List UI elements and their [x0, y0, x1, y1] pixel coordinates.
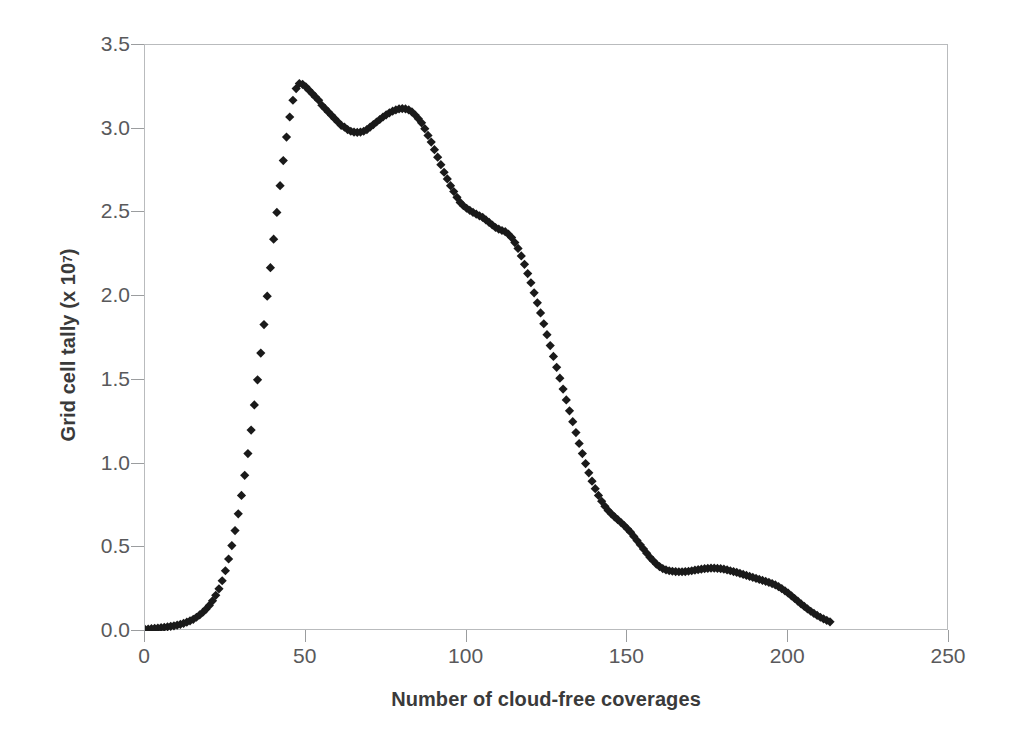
plot-area	[144, 44, 948, 630]
data-point	[259, 320, 268, 329]
data-point	[227, 541, 236, 550]
y-tickmark	[131, 379, 144, 380]
data-point	[571, 428, 580, 437]
data-point	[568, 417, 577, 426]
data-point	[224, 554, 233, 563]
x-tickmark	[626, 630, 627, 642]
data-series-scatter	[145, 45, 949, 631]
data-point	[282, 132, 291, 141]
y-tick-label: 2.0	[68, 283, 130, 307]
data-point	[288, 96, 297, 105]
y-tick-label: 1.0	[68, 451, 130, 475]
data-point	[558, 384, 567, 393]
series-grid-cell-tally	[145, 79, 835, 631]
data-point	[542, 330, 551, 339]
data-point	[247, 425, 256, 434]
y-tickmark	[131, 211, 144, 212]
y-tick-label-group: 0.00.51.01.52.02.53.03.5	[66, 0, 130, 752]
data-point	[552, 363, 561, 372]
data-point	[279, 156, 288, 165]
data-point	[578, 449, 587, 458]
data-point	[520, 260, 529, 269]
x-tick-label: 250	[930, 644, 965, 668]
data-point	[256, 348, 265, 357]
data-point	[263, 292, 272, 301]
chart-figure: Grid cell tally (x 107) 0.00.51.01.52.02…	[0, 0, 1009, 752]
data-point	[530, 288, 539, 297]
data-point	[546, 341, 555, 350]
y-tickmark	[131, 546, 144, 547]
data-point	[581, 459, 590, 468]
data-point	[555, 374, 564, 383]
data-point	[523, 269, 532, 278]
data-point	[237, 491, 246, 500]
data-point	[549, 352, 558, 361]
x-tickmark	[787, 630, 788, 642]
data-point	[243, 449, 252, 458]
y-tick-label: 0.0	[68, 618, 130, 642]
x-tick-label-group: 050100150200250	[0, 644, 1009, 676]
data-point	[575, 439, 584, 448]
x-tick-label: 100	[448, 644, 483, 668]
y-tick-label: 2.5	[68, 199, 130, 223]
x-tick-label: 0	[138, 644, 150, 668]
data-point	[565, 406, 574, 415]
y-tickmark	[131, 463, 144, 464]
data-point	[253, 375, 262, 384]
data-point	[266, 263, 275, 272]
x-tickmark	[948, 630, 949, 642]
data-point	[275, 181, 284, 190]
y-tick-label: 0.5	[68, 534, 130, 558]
x-axis-title: Number of cloud-free coverages	[144, 688, 948, 711]
data-point	[221, 566, 230, 575]
x-tick-label: 150	[609, 644, 644, 668]
data-point	[272, 208, 281, 217]
data-point	[230, 526, 239, 535]
y-tickmark	[131, 128, 144, 129]
data-point	[240, 471, 249, 480]
y-tick-label: 3.0	[68, 116, 130, 140]
y-tickmark	[131, 630, 144, 631]
y-tick-label: 3.5	[68, 32, 130, 56]
y-tickmark	[131, 295, 144, 296]
y-tickmark	[131, 44, 144, 45]
x-tick-label: 200	[770, 644, 805, 668]
x-tick-label: 50	[293, 644, 316, 668]
data-point	[234, 509, 243, 518]
x-tickmark	[466, 630, 467, 642]
data-point	[539, 319, 548, 328]
data-point	[250, 400, 259, 409]
data-point	[285, 112, 294, 121]
data-point	[562, 395, 571, 404]
x-tickmark	[144, 630, 145, 642]
data-point	[218, 576, 227, 585]
y-tick-label: 1.5	[68, 367, 130, 391]
data-point	[526, 278, 535, 287]
data-point	[533, 298, 542, 307]
x-tickmark	[305, 630, 306, 642]
data-point	[269, 235, 278, 244]
data-point	[536, 308, 545, 317]
data-point	[584, 468, 593, 477]
